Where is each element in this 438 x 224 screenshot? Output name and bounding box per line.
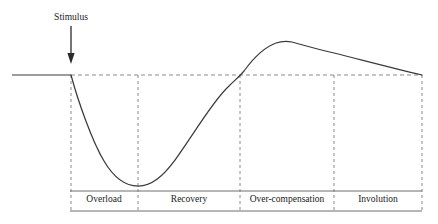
phase-label-recovery: Recovery <box>171 195 207 205</box>
supercompensation-diagram: Stimulus Overload Recovery Over-compensa… <box>0 0 438 224</box>
stimulus-arrow-head <box>67 53 74 64</box>
response-curve <box>71 41 422 186</box>
stimulus-label: Stimulus <box>54 13 88 23</box>
chart-canvas <box>0 0 438 224</box>
phase-label-over-compensation: Over-compensation <box>250 195 325 205</box>
phase-label-involution: Involution <box>358 195 398 205</box>
phase-label-overload: Overload <box>86 195 121 205</box>
